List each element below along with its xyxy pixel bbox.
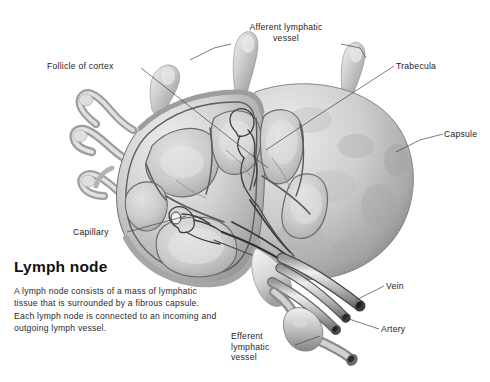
label-artery: Artery	[381, 324, 423, 335]
label-capillary: Capillary	[73, 227, 129, 238]
label-afferent-lymphatic-vessel: Afferent lymphatic vessel	[232, 22, 340, 43]
label-efferent-lymphatic-vessel: Efferent lymphatic vessel	[231, 331, 295, 363]
label-capsule: Capsule	[444, 129, 490, 140]
page-title: Lymph node	[14, 258, 219, 276]
leader-afferent-left	[190, 44, 231, 60]
leader-vein	[356, 286, 384, 300]
caption-body: A lymph node consists of a mass of lymph…	[14, 285, 219, 335]
caption-block: Lymph node A lymph node consists of a ma…	[14, 258, 219, 335]
label-vein: Vein	[386, 281, 420, 292]
afferent-vessel-left-upper	[79, 93, 133, 130]
label-trabecula: Trabecula	[396, 61, 458, 72]
label-follicle-of-cortex: Follicle of cortex	[47, 61, 142, 72]
